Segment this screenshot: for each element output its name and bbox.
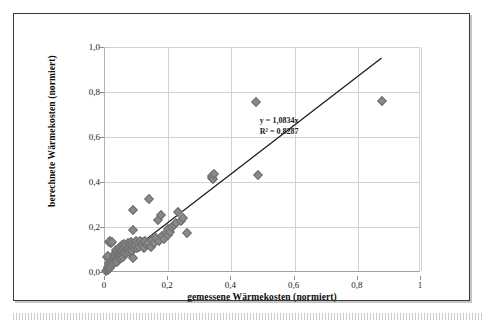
data-point (103, 265, 113, 275)
data-point (120, 249, 130, 259)
data-point (105, 257, 115, 267)
plot-frame-right (419, 47, 420, 271)
data-point (113, 246, 123, 256)
data-point (129, 243, 139, 253)
data-point (124, 242, 134, 252)
data-point (110, 252, 120, 262)
data-point (117, 251, 127, 261)
data-point (106, 255, 116, 265)
data-point (133, 238, 143, 248)
data-point (105, 263, 115, 273)
gridline-horizontal-1 (105, 227, 420, 228)
data-point (176, 216, 186, 226)
data-point (111, 255, 121, 265)
data-point (116, 245, 126, 255)
data-point (251, 97, 261, 107)
data-point (106, 260, 116, 270)
data-point (156, 210, 166, 220)
data-point (106, 261, 116, 271)
data-point (169, 220, 179, 230)
data-point (134, 242, 144, 252)
data-point (146, 242, 156, 252)
scatter-chart: y = 1,0834xR² = 0,8287 0,00,20,40,60,81,… (14, 14, 471, 302)
plot-area: y = 1,0834xR² = 0,8287 (104, 47, 420, 272)
data-point (114, 243, 124, 253)
data-point (142, 240, 152, 250)
x-tick-label-1: 0,2 (162, 280, 173, 290)
data-point (116, 253, 126, 263)
data-point (135, 236, 145, 246)
data-point (112, 253, 122, 263)
data-point (137, 240, 147, 250)
data-point (115, 242, 125, 252)
data-point (121, 248, 131, 258)
data-point (109, 250, 119, 260)
x-tickmark-1 (167, 276, 168, 280)
data-point (116, 247, 126, 257)
data-point (103, 264, 113, 274)
data-point (110, 251, 120, 261)
data-point (108, 252, 118, 262)
x-axis-ticks: 00,20,40,60,81 (104, 276, 420, 290)
x-tickmark-2 (230, 276, 231, 280)
data-point (173, 207, 183, 217)
data-point (103, 251, 113, 261)
x-tickmark-5 (420, 276, 421, 280)
data-point (124, 247, 134, 257)
data-point (209, 169, 219, 179)
gridline-horizontal-2 (105, 182, 420, 183)
data-point (126, 237, 136, 247)
gridline-vertical-4 (358, 47, 359, 271)
data-point (117, 246, 127, 256)
data-point (110, 256, 120, 266)
data-point (104, 258, 114, 268)
gridline-horizontal-4 (105, 92, 420, 93)
data-point (111, 247, 121, 257)
data-point (123, 246, 133, 256)
data-point (112, 257, 122, 267)
x-tickmark-0 (104, 276, 105, 280)
data-point (116, 250, 126, 260)
data-point (144, 194, 154, 204)
data-point (165, 227, 175, 237)
gridline-vertical-3 (295, 47, 296, 271)
y-tickmark-2 (100, 182, 104, 183)
x-tickmark-3 (294, 276, 295, 280)
y-tickmark-0 (100, 272, 104, 273)
data-point (157, 231, 167, 241)
y-tick-label-3: 0,6 (89, 132, 100, 142)
gridline-vertical-5 (421, 47, 422, 271)
y-axis-ticks: 0,00,20,40,60,81,0 (74, 47, 100, 272)
data-point (118, 249, 128, 259)
y-tickmark-5 (100, 47, 104, 48)
data-point (143, 238, 153, 248)
data-point (139, 243, 149, 253)
data-point (207, 173, 217, 183)
data-point (102, 252, 112, 262)
data-point (104, 263, 114, 273)
data-point (108, 256, 118, 266)
data-point (106, 238, 116, 248)
data-point (130, 240, 140, 250)
data-point (104, 262, 114, 272)
data-point (377, 96, 387, 106)
data-point (113, 248, 123, 258)
data-point (138, 237, 148, 247)
data-point (127, 242, 137, 252)
data-point (102, 265, 112, 275)
data-point (153, 215, 163, 225)
x-tick-label-5: 1 (418, 280, 423, 290)
data-point (120, 242, 130, 252)
x-tick-label-0: 0 (102, 280, 107, 290)
x-tick-label-2: 0,4 (225, 280, 236, 290)
data-point (154, 236, 164, 246)
y-tick-label-5: 1,0 (89, 42, 100, 52)
gridline-vertical-1 (168, 47, 169, 271)
annotation-line-1: R² = 0,8287 (260, 127, 299, 138)
x-tickmark-4 (357, 276, 358, 280)
data-point (119, 247, 129, 257)
data-point (104, 237, 114, 247)
data-point (107, 258, 117, 268)
data-point (253, 170, 263, 180)
data-point (115, 252, 125, 262)
